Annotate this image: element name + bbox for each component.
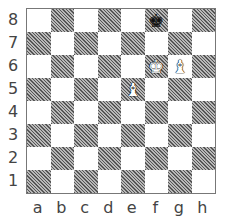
square-f3[interactable] [145, 124, 169, 147]
square-e8[interactable] [121, 9, 145, 32]
square-a2[interactable] [27, 147, 51, 170]
file-label: h [191, 198, 215, 216]
square-a5[interactable] [27, 78, 51, 101]
square-f1[interactable] [145, 170, 169, 193]
square-b7[interactable] [51, 32, 75, 55]
square-g4[interactable] [168, 101, 192, 124]
square-a6[interactable] [27, 55, 51, 78]
file-label: c [73, 198, 97, 216]
file-label: b [50, 198, 74, 216]
square-h5[interactable] [192, 78, 216, 101]
rank-label: 3 [6, 125, 20, 144]
square-c4[interactable] [74, 101, 98, 124]
file-label: a [26, 198, 50, 216]
file-label: e [120, 198, 144, 216]
square-h8[interactable] [192, 9, 216, 32]
square-b1[interactable] [51, 170, 75, 193]
square-a4[interactable] [27, 101, 51, 124]
square-b5[interactable] [51, 78, 75, 101]
white-bishop-piece[interactable]: ♝ [168, 55, 192, 78]
file-label: d [97, 198, 121, 216]
white-bishop-piece[interactable]: ♝ [121, 78, 145, 101]
square-b2[interactable] [51, 147, 75, 170]
square-h1[interactable] [192, 170, 216, 193]
square-c7[interactable] [74, 32, 98, 55]
square-g5[interactable] [168, 78, 192, 101]
square-d7[interactable] [98, 32, 122, 55]
square-f4[interactable] [145, 101, 169, 124]
square-h6[interactable] [192, 55, 216, 78]
square-c6[interactable] [74, 55, 98, 78]
square-a7[interactable] [27, 32, 51, 55]
square-c1[interactable] [74, 170, 98, 193]
square-d1[interactable] [98, 170, 122, 193]
rank-label: 5 [6, 79, 20, 98]
square-f5[interactable] [145, 78, 169, 101]
square-f7[interactable] [145, 32, 169, 55]
square-e1[interactable] [121, 170, 145, 193]
rank-label: 7 [6, 33, 20, 52]
square-g2[interactable] [168, 147, 192, 170]
square-a8[interactable] [27, 9, 51, 32]
square-h3[interactable] [192, 124, 216, 147]
square-g3[interactable] [168, 124, 192, 147]
file-label: g [167, 198, 191, 216]
square-g1[interactable] [168, 170, 192, 193]
square-f8[interactable]: ♚ [145, 9, 169, 32]
square-f6[interactable]: ♚ [145, 55, 169, 78]
rank-label: 1 [6, 171, 20, 190]
square-e5[interactable]: ♝ [121, 78, 145, 101]
square-b6[interactable] [51, 55, 75, 78]
square-g8[interactable] [168, 9, 192, 32]
square-h2[interactable] [192, 147, 216, 170]
square-d8[interactable] [98, 9, 122, 32]
rank-label: 8 [6, 10, 20, 29]
square-d4[interactable] [98, 101, 122, 124]
square-f2[interactable] [145, 147, 169, 170]
rank-label: 4 [6, 102, 20, 121]
chess-board: ♚♚♝♝ [26, 8, 216, 194]
rank-label: 6 [6, 56, 20, 75]
square-b4[interactable] [51, 101, 75, 124]
square-a1[interactable] [27, 170, 51, 193]
square-g7[interactable] [168, 32, 192, 55]
square-c3[interactable] [74, 124, 98, 147]
square-e6[interactable] [121, 55, 145, 78]
black-king-piece[interactable]: ♚ [145, 9, 169, 32]
square-d5[interactable] [98, 78, 122, 101]
rank-label: 2 [6, 148, 20, 167]
square-c2[interactable] [74, 147, 98, 170]
square-h7[interactable] [192, 32, 216, 55]
square-b3[interactable] [51, 124, 75, 147]
square-d3[interactable] [98, 124, 122, 147]
square-g6[interactable]: ♝ [168, 55, 192, 78]
square-e3[interactable] [121, 124, 145, 147]
square-d2[interactable] [98, 147, 122, 170]
file-label: f [144, 198, 168, 216]
square-e2[interactable] [121, 147, 145, 170]
white-king-piece[interactable]: ♚ [145, 55, 169, 78]
square-c5[interactable] [74, 78, 98, 101]
square-c8[interactable] [74, 9, 98, 32]
square-d6[interactable] [98, 55, 122, 78]
square-e4[interactable] [121, 101, 145, 124]
square-b8[interactable] [51, 9, 75, 32]
square-a3[interactable] [27, 124, 51, 147]
square-h4[interactable] [192, 101, 216, 124]
square-e7[interactable] [121, 32, 145, 55]
